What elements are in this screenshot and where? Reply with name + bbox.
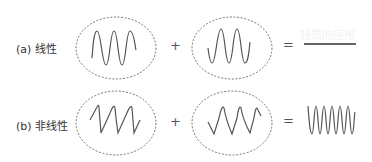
- row-a-ellipse-1: [76, 17, 156, 79]
- row-a-sine-wave-1: [92, 31, 136, 65]
- row-b-sawtooth-wave-2: [208, 107, 261, 134]
- row-b-result-sine-wave: [308, 106, 355, 134]
- row-a-sine-wave-2: [208, 29, 250, 63]
- interference-diagram: [0, 0, 372, 162]
- row-b-ellipse-2: [192, 91, 272, 155]
- row-b-sawtooth-wave-1: [90, 105, 140, 133]
- row-a-ellipse-2: [192, 17, 272, 79]
